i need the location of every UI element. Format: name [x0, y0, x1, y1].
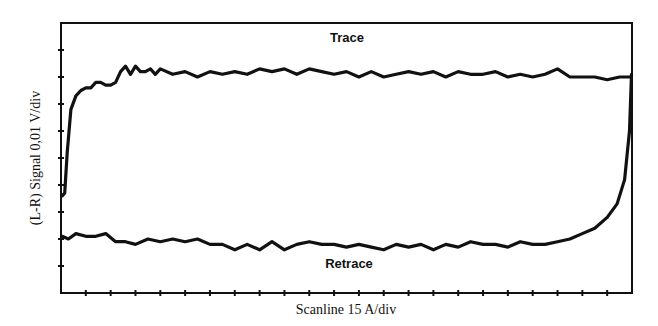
- retrace-line: [62, 74, 631, 250]
- retrace-annotation: Retrace: [325, 256, 373, 271]
- y-axis-label: (L-R) Signal 0,01 V/div: [28, 91, 44, 225]
- x-axis-label: Scanline 15 A/div: [296, 302, 396, 317]
- chart: Trace Retrace Scanline 15 A/div (L-R) Si…: [0, 0, 658, 326]
- trace-line: [62, 66, 631, 196]
- plot-frame: [61, 23, 632, 293]
- trace-annotation: Trace: [330, 30, 364, 45]
